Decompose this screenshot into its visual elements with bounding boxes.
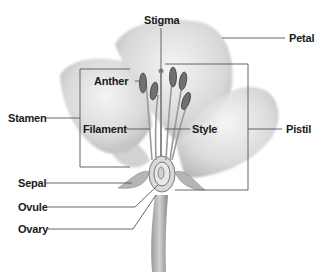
- label-pistil: Pistil: [286, 123, 311, 135]
- label-stamen: Stamen: [8, 112, 47, 124]
- stem: [151, 195, 168, 272]
- ovary-shape: [149, 156, 175, 192]
- label-stigma: Stigma: [144, 14, 179, 26]
- label-ovule: Ovule: [18, 201, 48, 213]
- label-sepal: Sepal: [18, 177, 46, 189]
- flower-illustration: [0, 0, 324, 277]
- label-anther: Anther: [94, 75, 128, 87]
- label-ovary: Ovary: [18, 223, 48, 235]
- label-filament: Filament: [83, 123, 127, 135]
- petals: [60, 19, 279, 178]
- label-style: Style: [192, 123, 217, 135]
- label-petal: Petal: [289, 32, 314, 44]
